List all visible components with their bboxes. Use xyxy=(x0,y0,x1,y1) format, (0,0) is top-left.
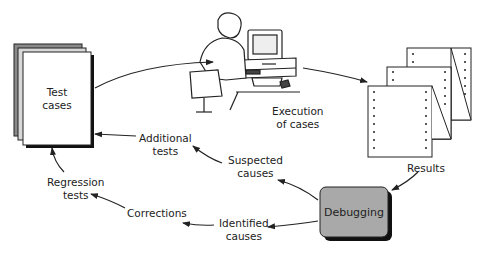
execution-label: Execution of cases xyxy=(272,105,324,131)
test-cases-label: Testcases xyxy=(23,86,91,112)
debugging-label: Debugging xyxy=(320,206,388,219)
diagram-canvas xyxy=(0,0,486,253)
test-cases-line: Test xyxy=(23,86,91,99)
test-cases-line: cases xyxy=(23,99,91,112)
suspected-causes-label: Suspected causes xyxy=(228,154,283,180)
identified-causes-label: Identified causes xyxy=(219,217,269,243)
additional-tests-label: Additional tests xyxy=(139,132,192,158)
corrections-label: Corrections xyxy=(127,207,187,220)
regression-tests-label: Regression tests xyxy=(47,176,104,202)
results-label: Results xyxy=(407,162,445,175)
results-printouts-icon xyxy=(368,48,471,157)
